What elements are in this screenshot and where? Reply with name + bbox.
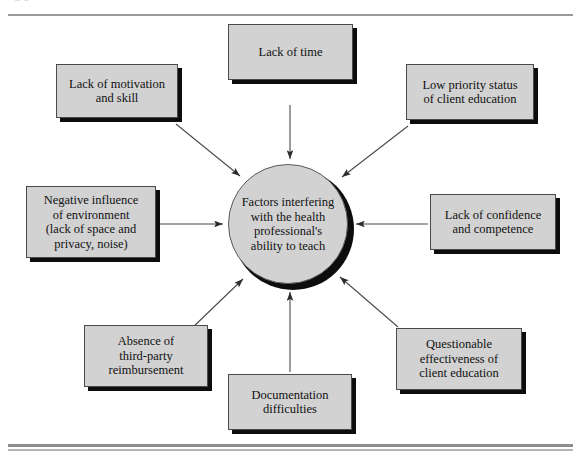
node-documentation: Documentation difficulties — [228, 374, 352, 430]
node-label: Negative influence of environment (lack … — [40, 193, 143, 251]
node-negative-influence: Negative influence of environment (lack … — [26, 186, 156, 258]
node-label: Low priority status of client education — [418, 78, 521, 107]
node-lack-of-confidence: Lack of confidence and competence — [430, 194, 556, 250]
node-face: Lack of confidence and competence — [430, 194, 556, 250]
node-face: Negative influence of environment (lack … — [26, 186, 156, 258]
node-lack-of-motivation: Lack of motivation and skill — [56, 64, 178, 118]
node-questionable-effectiveness: Questionable effectiveness of client edu… — [396, 328, 522, 390]
node-face: Absence of third-party reimbursement — [84, 325, 208, 387]
node-label: Lack of motivation and skill — [65, 77, 169, 106]
node-label: Documentation difficulties — [247, 388, 332, 417]
node-label: Lack of time — [255, 45, 327, 60]
bottom-rule-outer — [8, 444, 573, 447]
center-circle: Factors interfering with the health prof… — [228, 164, 348, 284]
node-label: Lack of confidence and competence — [441, 208, 545, 237]
figure-container: g g — [0, 0, 581, 458]
bottom-rule-inner — [8, 449, 573, 451]
node-face: Lack of motivation and skill — [56, 64, 178, 118]
node-face: Lack of time — [228, 24, 353, 80]
node-low-priority-status: Low priority status of client education — [406, 64, 534, 120]
node-face: Low priority status of client education — [406, 64, 534, 120]
node-label: Questionable effectiveness of client edu… — [415, 337, 502, 381]
node-absence-reimbursement: Absence of third-party reimbursement — [84, 325, 208, 387]
node-label: Absence of third-party reimbursement — [105, 334, 188, 378]
center-circle-label: Factors interfering with the health prof… — [234, 195, 343, 253]
node-lack-of-time: Lack of time — [228, 24, 353, 80]
arrow-lack-of-motivation — [176, 124, 240, 176]
arrow-absence-reimbursement — [190, 279, 243, 330]
arrow-low-priority-status — [342, 126, 408, 177]
node-face: Documentation difficulties — [228, 374, 352, 430]
arrow-questionable-effectiveness — [340, 277, 398, 327]
node-face: Questionable effectiveness of client edu… — [396, 328, 522, 390]
